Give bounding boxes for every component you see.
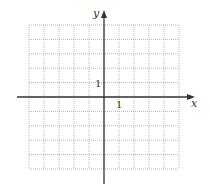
- x-unit-label: 1: [116, 99, 122, 110]
- y-axis-arrow-icon: [101, 10, 107, 18]
- y-axis-label: y: [92, 7, 100, 20]
- coordinate-plane: x y 1 1: [0, 0, 210, 196]
- y-unit-label: 1: [95, 78, 101, 89]
- x-axis-label: x: [191, 97, 198, 110]
